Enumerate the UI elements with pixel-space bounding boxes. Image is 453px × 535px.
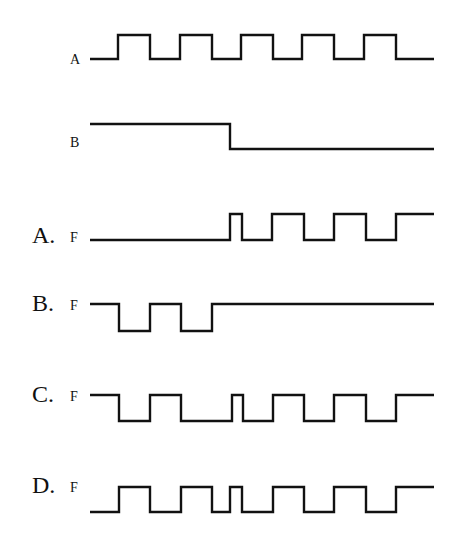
option-waveform-a — [90, 214, 434, 240]
option-waveform-d — [90, 487, 434, 512]
output-label-f-a: F — [70, 230, 78, 245]
option-label-d: D. — [32, 472, 55, 498]
option-waveform-c — [90, 395, 434, 421]
input-label-a: A — [70, 52, 81, 67]
option-waveform-b — [90, 304, 434, 331]
output-label-f-c: F — [70, 389, 78, 404]
option-label-c: C. — [32, 381, 54, 407]
option-label-b: B. — [32, 290, 54, 316]
output-label-f-d: F — [70, 480, 78, 495]
input-waveform-a — [90, 35, 434, 59]
timing-diagram: ABA.FB.FC.FD.F — [0, 0, 453, 535]
input-label-b: B — [70, 135, 79, 150]
input-waveform-b — [90, 124, 434, 149]
option-label-a: A. — [32, 222, 55, 248]
output-label-f-b: F — [70, 298, 78, 313]
